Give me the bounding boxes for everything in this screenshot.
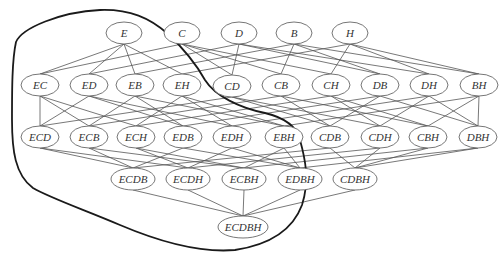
edge-DB-DBH — [380, 96, 478, 126]
node-CB: CB — [262, 74, 300, 96]
node-label: EB — [127, 79, 142, 91]
edge-E-ED — [89, 44, 124, 74]
node-DBH: DBH — [459, 126, 497, 148]
node-EB: EB — [116, 74, 154, 96]
node-label: B — [291, 27, 298, 39]
node-E: E — [106, 22, 142, 44]
node-EDBH: EDBH — [278, 168, 322, 190]
edge-ECDH-ECDBH — [188, 190, 243, 216]
node-label: EDB — [171, 131, 194, 143]
node-H: H — [332, 22, 368, 44]
node-label: CH — [323, 79, 339, 91]
node-CBH: CBH — [409, 126, 447, 148]
edge-CBH-ECBH — [244, 148, 428, 168]
edge-CB-CDB — [281, 96, 330, 126]
node-label: BH — [472, 79, 488, 91]
node-label: D — [234, 27, 243, 39]
node-EH: EH — [163, 74, 201, 96]
node-B: B — [276, 22, 312, 44]
edge-E-EH — [124, 44, 182, 74]
edge-CD-ECD — [40, 97, 232, 126]
node-label: ECDH — [172, 173, 204, 185]
node-label: DH — [420, 79, 438, 91]
node-label: DBH — [466, 131, 491, 143]
node-label: ECD — [28, 131, 51, 143]
edge-DBH-EDBH — [300, 148, 478, 168]
node-ECDH: ECDH — [166, 168, 210, 190]
node-C: C — [164, 22, 200, 44]
node-BH: BH — [460, 74, 498, 96]
node-EBH: EBH — [265, 126, 303, 148]
edge-DB-EDB — [183, 96, 380, 126]
node-label: ECDBH — [224, 221, 263, 233]
edge-ECBH-ECDBH — [243, 190, 244, 216]
node-ECD: ECD — [21, 126, 59, 148]
node-ECDB: ECDB — [111, 168, 155, 190]
node-label: EDH — [220, 131, 245, 143]
edge-CDH-CDBH — [355, 148, 380, 168]
node-CDBH: CDBH — [333, 168, 377, 190]
edge-ECDB-ECDBH — [133, 190, 243, 216]
node-label: DB — [372, 79, 388, 91]
node-DB: DB — [361, 74, 399, 96]
node-label: ECB — [78, 131, 100, 143]
edge-B-BH — [294, 44, 479, 74]
node-label: EDBH — [284, 173, 315, 185]
node-DH: DH — [410, 74, 448, 96]
node-EDH: EDH — [213, 126, 251, 148]
node-CDB: CDB — [311, 126, 349, 148]
node-label: CB — [274, 79, 288, 91]
edge-DH-EDH — [232, 96, 429, 126]
node-label: ECBH — [229, 173, 260, 185]
edge-BH-DBH — [478, 96, 479, 126]
node-label: EH — [174, 79, 191, 91]
edge-EDH-ECDH — [188, 148, 232, 168]
node-label: CBH — [417, 131, 440, 143]
edge-H-BH — [350, 44, 479, 74]
edge-H-DH — [350, 44, 429, 74]
node-label: C — [178, 27, 186, 39]
node-EC: EC — [21, 74, 59, 96]
node-CH: CH — [312, 74, 350, 96]
node-label: CDH — [368, 131, 392, 143]
node-ED: ED — [70, 74, 108, 96]
node-label: EC — [32, 79, 48, 91]
node-ECB: ECB — [70, 126, 108, 148]
node-label: E — [120, 27, 128, 39]
node-label: ED — [81, 79, 97, 91]
node-label: EBH — [272, 131, 295, 143]
edge-EC-ECH — [40, 96, 136, 126]
edge-CB-ECB — [89, 96, 281, 126]
edge-B-CB — [281, 44, 294, 74]
lattice-nodes: ECDBHECEDEBEHCDCBCHDBDHBHECDECBECHEDBEDH… — [21, 22, 498, 238]
subset-lattice-diagram: ECDBHECEDEBEHCDCBCHDBDHBHECDECBECHEDBEDH… — [0, 0, 500, 261]
node-CDH: CDH — [361, 126, 399, 148]
edge-ECD-ECDB — [40, 148, 133, 168]
node-CD: CD — [213, 75, 251, 97]
edge-EBH-ECBH — [244, 148, 284, 168]
edge-BH-EBH — [284, 96, 479, 126]
node-label: ECH — [124, 131, 148, 143]
node-ECBH: ECBH — [222, 168, 266, 190]
node-label: CDBH — [340, 173, 371, 185]
node-ECH: ECH — [117, 126, 155, 148]
edge-ED-EDB — [89, 96, 183, 126]
edge-EDBH-ECDBH — [243, 190, 300, 216]
node-EDB: EDB — [164, 126, 202, 148]
node-label: CDB — [319, 131, 341, 143]
node-ECDBH: ECDBH — [218, 216, 268, 238]
node-label: H — [345, 27, 355, 39]
node-label: ECDB — [118, 173, 148, 185]
highlight-boundary-curve — [12, 10, 306, 251]
node-label: CD — [224, 80, 239, 92]
node-D: D — [221, 22, 257, 44]
edge-EDB-ECDB — [133, 148, 183, 168]
